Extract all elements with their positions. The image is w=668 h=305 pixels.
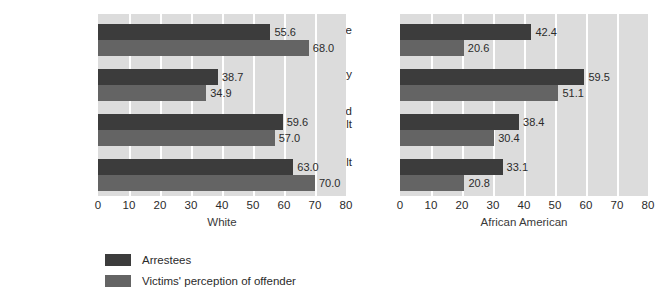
bar-value: 59.5 xyxy=(588,72,609,83)
x-tick: 50 xyxy=(247,199,260,212)
bar-value: 20.8 xyxy=(468,178,489,189)
x-tick: 70 xyxy=(309,199,322,212)
bar-value: 57.0 xyxy=(279,133,300,144)
bar-group-robbery: 59.5 51.1 xyxy=(400,69,648,103)
bar-rape-victims: 20.6 xyxy=(400,40,464,56)
x-tick: 0 xyxy=(397,199,403,212)
bar-aggravated-assault-victims: 57.0 xyxy=(98,130,275,146)
x-tick: 40 xyxy=(216,199,229,212)
legend-swatch-victims-perception xyxy=(105,275,131,287)
bar-value: 20.6 xyxy=(468,43,489,54)
bar-simple-assault-arrestees: 33.1 xyxy=(400,159,503,175)
x-axis-title-white: White xyxy=(98,216,346,229)
bar-group-aggravated-assault: 59.6 57.0 xyxy=(98,114,346,148)
bar-aggravated-assault-victims: 30.4 xyxy=(400,130,494,146)
x-tick: 20 xyxy=(154,199,167,212)
x-tick: 10 xyxy=(425,199,438,212)
x-axis-title-african-american: African American xyxy=(400,216,648,229)
bar-value: 70.0 xyxy=(319,178,340,189)
bar-group-rape: 55.6 68.0 xyxy=(98,24,346,58)
bar-value: 34.9 xyxy=(210,88,231,99)
bar-simple-assault-arrestees: 63.0 xyxy=(98,159,293,175)
bar-group-aggravated-assault: 38.4 30.4 xyxy=(400,114,648,148)
bar-aggravated-assault-arrestees: 38.4 xyxy=(400,114,519,130)
bar-value: 55.6 xyxy=(274,27,295,38)
x-tick: 60 xyxy=(580,199,593,212)
bar-value: 63.0 xyxy=(297,162,318,173)
bar-value: 51.1 xyxy=(562,88,583,99)
plot-area-white: 55.6 68.0 38.7 34.9 59.6 xyxy=(98,14,346,196)
x-tick: 80 xyxy=(642,199,655,212)
chart-legend: Arrestees Victims' perception of offende… xyxy=(105,252,296,294)
grouped-bar-chart-figure: Rape Robbery Aggravated assault Simple a… xyxy=(0,0,668,305)
legend-item-victims-perception: Victims' perception of offender xyxy=(105,273,296,289)
bar-robbery-arrestees: 59.5 xyxy=(400,69,584,85)
panel-african-american: 42.4 20.6 59.5 51.1 38.4 xyxy=(380,0,668,240)
x-tick: 40 xyxy=(518,199,531,212)
bar-rape-arrestees: 55.6 xyxy=(98,24,270,40)
bar-value: 38.4 xyxy=(523,117,544,128)
x-tick: 30 xyxy=(185,199,198,212)
bar-value: 33.1 xyxy=(507,162,528,173)
bar-robbery-victims: 34.9 xyxy=(98,85,206,101)
bar-rape-victims: 68.0 xyxy=(98,40,309,56)
x-tick: 0 xyxy=(95,199,101,212)
bar-group-simple-assault: 63.0 70.0 xyxy=(98,159,346,193)
legend-label-victims-perception: Victims' perception of offender xyxy=(142,275,296,288)
bar-value: 42.4 xyxy=(535,27,556,38)
plot-area-african-american: 42.4 20.6 59.5 51.1 38.4 xyxy=(400,14,648,196)
panel-white: Rape Robbery Aggravated assault Simple a… xyxy=(0,0,360,240)
bar-group-rape: 42.4 20.6 xyxy=(400,24,648,58)
x-tick: 50 xyxy=(549,199,562,212)
x-tick: 70 xyxy=(611,199,624,212)
x-tick: 30 xyxy=(487,199,500,212)
bar-simple-assault-victims: 70.0 xyxy=(98,175,315,191)
x-tick: 60 xyxy=(278,199,291,212)
legend-item-arrestees: Arrestees xyxy=(105,252,296,268)
x-tick: 20 xyxy=(456,199,469,212)
bar-value: 30.4 xyxy=(498,133,519,144)
bar-group-simple-assault: 33.1 20.8 xyxy=(400,159,648,193)
bar-rape-arrestees: 42.4 xyxy=(400,24,531,40)
legend-swatch-arrestees xyxy=(105,254,131,266)
bar-robbery-victims: 51.1 xyxy=(400,85,558,101)
bar-value: 59.6 xyxy=(287,117,308,128)
x-tick: 10 xyxy=(123,199,136,212)
bar-value: 68.0 xyxy=(313,43,334,54)
bar-value: 38.7 xyxy=(222,72,243,83)
x-tick: 80 xyxy=(340,199,353,212)
bar-robbery-arrestees: 38.7 xyxy=(98,69,218,85)
bar-aggravated-assault-arrestees: 59.6 xyxy=(98,114,283,130)
legend-label-arrestees: Arrestees xyxy=(142,254,191,267)
bar-group-robbery: 38.7 34.9 xyxy=(98,69,346,103)
bar-simple-assault-victims: 20.8 xyxy=(400,175,464,191)
